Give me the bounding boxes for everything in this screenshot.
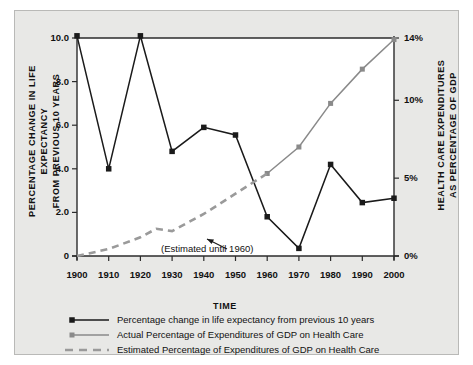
legend-item[interactable]: Actual Percentage of Expenditures of GDP… — [63, 327, 463, 342]
series-marker — [264, 214, 270, 220]
series-marker — [296, 246, 302, 252]
series-marker — [169, 149, 175, 155]
legend-swatch — [63, 329, 111, 341]
series-marker — [296, 145, 301, 150]
series-marker — [106, 166, 112, 172]
series-marker — [360, 67, 365, 72]
series-marker — [328, 162, 334, 168]
estimated-annotation: (Estimated until 1960) — [161, 243, 253, 254]
legend-label: Percentage change in life expectancy fro… — [117, 314, 374, 325]
series-marker — [392, 37, 397, 42]
series-marker — [233, 132, 239, 138]
chart-figure: PERCENTAGE CHANGE IN LIFE EXPECTANCY FRO… — [14, 10, 459, 355]
series-marker — [360, 200, 366, 206]
legend-item[interactable]: Percentage change in life expectancy fro… — [63, 312, 463, 327]
legend-swatch — [63, 314, 111, 326]
legend-swatch — [63, 344, 111, 356]
plot-background — [77, 38, 394, 256]
legend-item[interactable]: Estimated Percentage of Expenditures of … — [63, 342, 463, 357]
chart-legend: Percentage change in life expectancy fro… — [63, 312, 463, 357]
legend-label: Estimated Percentage of Expenditures of … — [117, 344, 379, 355]
series-marker — [328, 101, 333, 106]
series-marker — [391, 195, 397, 201]
legend-label: Actual Percentage of Expenditures of GDP… — [117, 329, 363, 340]
series-marker — [74, 33, 80, 39]
series-marker — [138, 33, 144, 39]
series-marker — [201, 125, 207, 131]
chart-plot — [15, 11, 460, 356]
